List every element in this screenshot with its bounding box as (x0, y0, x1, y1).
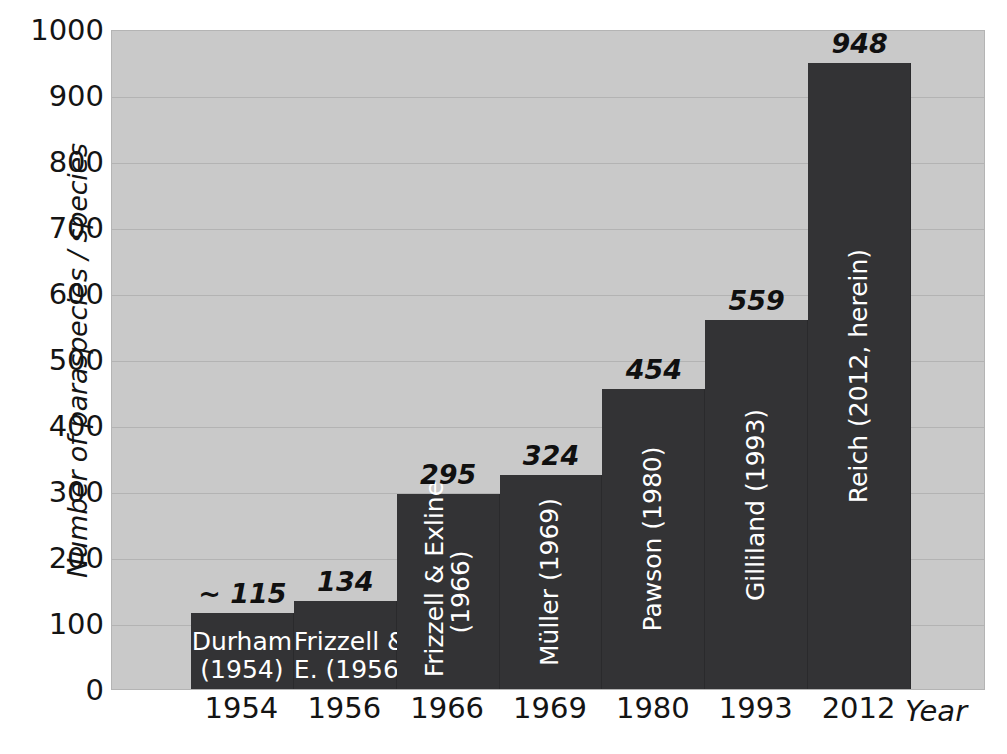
y-axis-tick-label: 700 (0, 214, 104, 243)
plot-area: Durham (1954)~ 115Frizzell & E. (1956)13… (111, 30, 985, 690)
bar-value-label: 454 (626, 354, 682, 385)
y-axis-tick-labels: 10009008007006005004003002001000 (0, 30, 104, 690)
x-axis-tick-label: 1954 (205, 694, 279, 723)
x-axis-tick-labels: 1954195619661969198019932012 (111, 694, 985, 738)
bars-layer: Durham (1954)~ 115Frizzell & E. (1956)13… (112, 31, 984, 689)
y-axis-tick-label: 200 (0, 544, 104, 573)
x-axis-tick-label: 1969 (513, 694, 587, 723)
bar-value-label: ~ 115 (198, 578, 286, 609)
bar-chart-figure: Number of paraspecies / species 10009008… (0, 0, 1007, 754)
bar-source-label: Müller (1969) (537, 487, 563, 677)
y-axis-tick-label: 0 (0, 676, 104, 705)
bar: Frizzell & E. (1956) (294, 601, 397, 689)
bar-source-label: Reich (2012, herein) (846, 75, 872, 677)
bar: Pawson (1980) (602, 389, 705, 689)
y-axis-tick-label: 800 (0, 148, 104, 177)
x-axis-tick-label: 1993 (719, 694, 793, 723)
bar-value-label: 324 (523, 440, 579, 471)
x-axis-tick-label: 1956 (307, 694, 381, 723)
bar-source-label: Durham (1954) (191, 628, 293, 683)
y-axis-tick-label: 300 (0, 478, 104, 507)
bar-source-label: Frizzell & Exline (1966) (421, 506, 474, 677)
y-axis-tick-label: 100 (0, 610, 104, 639)
y-axis-tick-label: 400 (0, 412, 104, 441)
y-axis-tick-label: 500 (0, 346, 104, 375)
bar-value-label: 559 (729, 285, 785, 316)
bar-value-label: 134 (317, 566, 373, 597)
bar: Gilliland (1993) (705, 320, 808, 689)
bar: Frizzell & Exline (1966) (397, 494, 500, 689)
bar: Durham (1954) (191, 613, 294, 689)
bar: Reich (2012, herein) (808, 63, 911, 689)
bar-source-label: Pawson (1980) (640, 401, 666, 677)
bar-source-label: Frizzell & E. (1956) (294, 628, 396, 683)
x-axis-tick-label: 1980 (616, 694, 690, 723)
x-axis-tick-label: 1966 (410, 694, 484, 723)
y-axis-tick-label: 600 (0, 280, 104, 309)
x-axis-title: Year (905, 694, 967, 728)
bar-source-label: Gilliland (1993) (743, 332, 769, 677)
y-axis-tick-label: 1000 (0, 16, 104, 45)
y-axis-tick-label: 900 (0, 82, 104, 111)
bar-value-label: 295 (420, 459, 476, 490)
x-axis-tick-label: 2012 (822, 694, 896, 723)
bar-value-label: 948 (831, 28, 887, 59)
bar: Müller (1969) (500, 475, 603, 689)
